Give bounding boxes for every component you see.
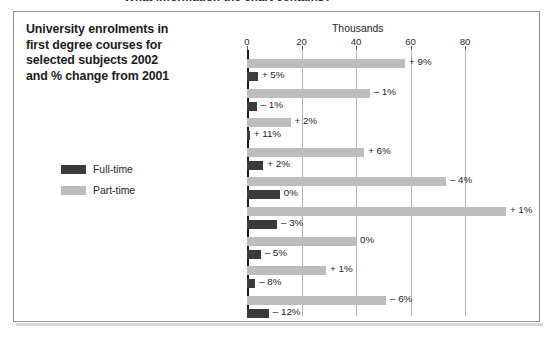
bar-change-label: + 1%	[330, 263, 353, 274]
caption-strip: What information the chart contains?	[0, 0, 554, 9]
bar-change-label: + 1%	[510, 204, 533, 215]
plot-area: Thousands 020406080 Biologicalsciences+ …	[14, 12, 541, 323]
bar-change-label: – 4%	[450, 174, 472, 185]
bar-part-time	[247, 89, 370, 98]
bar-part-time	[247, 237, 356, 246]
bar-full-time	[247, 220, 277, 229]
bar-change-label: + 6%	[368, 145, 391, 156]
caption-text: What information the chart contains?	[124, 0, 331, 3]
bar-change-label: + 11%	[254, 128, 281, 139]
bar-full-time	[247, 309, 269, 318]
bar-part-time	[247, 266, 326, 275]
bar-part-time	[247, 207, 506, 216]
bar-change-label: + 9%	[409, 56, 432, 67]
bar-change-label: – 1%	[261, 99, 283, 110]
bar-change-label: – 8%	[259, 276, 281, 287]
bar-full-time	[247, 102, 257, 111]
bar-full-time	[247, 161, 263, 170]
bar-part-time	[247, 118, 291, 127]
bar-change-label: + 2%	[267, 158, 290, 169]
bar-part-time	[247, 59, 405, 68]
bar-change-label: – 6%	[390, 293, 412, 304]
bar-change-label: 0%	[284, 187, 298, 198]
x-axis-title: Thousands	[332, 23, 383, 34]
bar-part-time	[247, 296, 386, 305]
bar-part-time	[247, 148, 364, 157]
bar-part-time	[247, 177, 446, 186]
bar-change-label: – 12%	[273, 306, 301, 317]
figure-shadow	[16, 323, 543, 326]
figure-box: University enrolments in first degree co…	[13, 11, 540, 322]
bar-full-time	[247, 190, 280, 199]
bar-change-label: + 5%	[262, 69, 285, 80]
bar-change-label: – 1%	[374, 86, 396, 97]
bar-full-time	[247, 72, 258, 81]
bar-full-time	[247, 131, 250, 140]
bar-change-label: – 3%	[281, 217, 303, 228]
chart-page: What information the chart contains? Uni…	[0, 0, 554, 348]
bar-full-time	[247, 250, 261, 259]
bar-change-label: – 5%	[265, 247, 287, 258]
bar-change-label: 0%	[360, 234, 374, 245]
bar-change-label: + 2%	[295, 115, 318, 126]
bar-full-time	[247, 279, 255, 288]
